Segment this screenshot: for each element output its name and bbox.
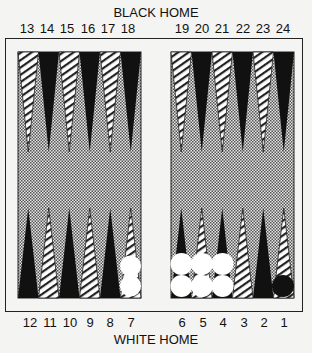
white-checker[interactable] [120, 256, 141, 277]
black-checker[interactable] [272, 275, 294, 297]
white-checker[interactable] [171, 253, 193, 275]
left-board [18, 52, 141, 298]
point-number-9: 9 [79, 316, 101, 330]
white-checker[interactable] [212, 275, 234, 297]
point-number-4: 4 [212, 316, 234, 330]
point-number-3: 3 [233, 316, 255, 330]
white-checker[interactable] [120, 276, 141, 297]
point-number-2: 2 [253, 316, 275, 330]
point-number-12: 12 [19, 316, 41, 330]
point-number-8: 8 [99, 316, 121, 330]
right-board [171, 52, 295, 298]
point-number-6: 6 [171, 316, 193, 330]
point-number-11: 11 [39, 316, 61, 330]
white-home-label: WHITE HOME [0, 333, 312, 347]
point-number-5: 5 [192, 316, 214, 330]
point-number-7: 7 [120, 316, 142, 330]
point-number-1: 1 [273, 316, 295, 330]
backgammon-board [0, 0, 312, 353]
point-number-10: 10 [59, 316, 81, 330]
white-checker[interactable] [212, 253, 234, 275]
white-checker[interactable] [171, 275, 193, 297]
white-checker[interactable] [191, 253, 213, 275]
white-checker[interactable] [191, 275, 213, 297]
